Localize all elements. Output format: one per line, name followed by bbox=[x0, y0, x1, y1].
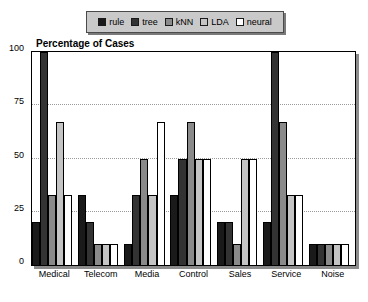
bar-medical-neural bbox=[64, 195, 72, 265]
x-axis-tick-label: Sales bbox=[217, 269, 263, 279]
y-axis-tick-label: 75 bbox=[14, 96, 24, 106]
bar-control-lda bbox=[195, 159, 203, 266]
bar-group-sales bbox=[217, 52, 263, 265]
bar-media-tree bbox=[132, 195, 140, 265]
bar-service-tree bbox=[271, 52, 279, 265]
x-axis-tick-label: Telecom bbox=[77, 269, 123, 279]
bar-telecom-knn bbox=[94, 244, 102, 265]
legend-item-label: neural bbox=[247, 18, 272, 27]
bar-group-service bbox=[263, 52, 309, 265]
y-axis-tick-label: 50 bbox=[14, 150, 24, 160]
legend-item-label: rule bbox=[109, 18, 124, 27]
legend-swatch-icon bbox=[131, 18, 139, 26]
bar-noise-lda bbox=[333, 244, 341, 265]
bar-telecom-lda bbox=[102, 244, 110, 265]
legend-item-label: LDA bbox=[211, 18, 229, 27]
bar-telecom-tree bbox=[86, 222, 94, 265]
bar-sales-knn bbox=[233, 244, 241, 265]
plot-inner bbox=[32, 52, 355, 265]
legend-swatch-icon bbox=[236, 18, 244, 26]
x-axis-tick-label: Media bbox=[124, 269, 170, 279]
legend-swatch-icon bbox=[200, 18, 208, 26]
x-axis-labels: MedicalTelecomMediaControlSalesServiceNo… bbox=[31, 269, 356, 279]
y-axis-labels: 0255075100 bbox=[0, 51, 27, 266]
bar-group-control bbox=[170, 52, 216, 265]
legend-swatch-icon bbox=[98, 18, 106, 26]
bar-control-neural bbox=[203, 159, 211, 266]
x-axis-tick-label: Service bbox=[263, 269, 309, 279]
bar-group-telecom bbox=[78, 52, 124, 265]
bar-sales-neural bbox=[249, 159, 257, 266]
bar-group-noise bbox=[309, 52, 355, 265]
bar-telecom-rule bbox=[78, 195, 86, 265]
legend-item-label: kNN bbox=[176, 18, 194, 27]
bar-control-tree bbox=[178, 159, 186, 266]
legend-swatch-icon bbox=[165, 18, 173, 26]
bars-layer bbox=[32, 52, 355, 265]
bar-control-rule bbox=[170, 195, 178, 265]
bar-control-knn bbox=[187, 122, 195, 265]
bar-media-knn bbox=[140, 159, 148, 266]
legend-item-rule: rule bbox=[98, 18, 124, 27]
bar-medical-tree bbox=[40, 52, 48, 265]
bar-medical-lda bbox=[56, 122, 64, 265]
legend-item-lda: LDA bbox=[200, 18, 229, 27]
bar-sales-tree bbox=[225, 222, 233, 265]
legend-item-knn: kNN bbox=[165, 18, 194, 27]
y-axis-tick-label: 100 bbox=[9, 43, 24, 53]
chart-title: Percentage of Cases bbox=[36, 38, 134, 49]
bar-noise-tree bbox=[317, 244, 325, 265]
bar-medical-rule bbox=[32, 222, 40, 265]
bar-service-rule bbox=[263, 222, 271, 265]
bar-service-lda bbox=[287, 195, 295, 265]
bar-noise-neural bbox=[341, 244, 349, 265]
bar-noise-knn bbox=[325, 244, 333, 265]
legend-item-neural: neural bbox=[236, 18, 272, 27]
x-axis-tick-label: Control bbox=[170, 269, 216, 279]
bar-media-rule bbox=[124, 244, 132, 265]
bar-media-neural bbox=[157, 122, 165, 265]
bar-group-medical bbox=[32, 52, 78, 265]
x-axis-tick-label: Noise bbox=[310, 269, 356, 279]
bar-media-lda bbox=[148, 195, 156, 265]
x-axis-tick-label: Medical bbox=[31, 269, 77, 279]
chart-legend: ruletreekNNLDAneural bbox=[86, 11, 284, 33]
bar-noise-rule bbox=[309, 244, 317, 265]
legend-item-label: tree bbox=[142, 18, 158, 27]
y-axis-tick-label: 0 bbox=[19, 256, 24, 266]
bar-sales-rule bbox=[217, 222, 225, 265]
legend-item-tree: tree bbox=[131, 18, 158, 27]
plot-area bbox=[31, 51, 356, 266]
bar-telecom-neural bbox=[110, 244, 118, 265]
bar-medical-knn bbox=[48, 195, 56, 265]
y-axis-tick-label: 25 bbox=[14, 203, 24, 213]
bar-service-neural bbox=[295, 195, 303, 265]
bar-sales-lda bbox=[241, 159, 249, 266]
bar-group-media bbox=[124, 52, 170, 265]
bar-service-knn bbox=[279, 122, 287, 265]
